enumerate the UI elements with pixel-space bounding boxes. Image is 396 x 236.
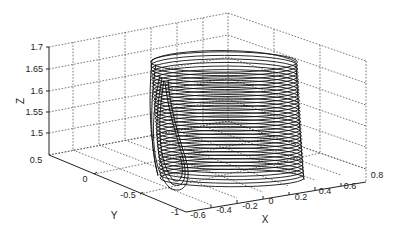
y-tick-labels: 0.5 0 -0.5 -1	[30, 155, 179, 217]
y-axis-label: Y	[111, 210, 118, 221]
trajectory-ring	[159, 159, 303, 177]
svg-text:0.5: 0.5	[30, 155, 43, 165]
svg-text:0: 0	[82, 174, 87, 184]
3d-plot: 1.7 1.65 1.6 1.55 1.5 Z 0.5 0 -0.5 -1 Y …	[0, 0, 396, 236]
svg-text:1.6: 1.6	[30, 86, 43, 96]
svg-text:-0.2: -0.2	[242, 201, 258, 211]
svg-text:-1: -1	[171, 207, 179, 217]
svg-text:0.8: 0.8	[371, 170, 384, 180]
z-tick-labels: 1.7 1.65 1.6 1.55 1.5	[25, 42, 43, 138]
svg-text:-0.5: -0.5	[120, 190, 136, 200]
trajectory-ring	[160, 166, 304, 184]
svg-text:0.6: 0.6	[344, 181, 357, 191]
x-axis-label: X	[262, 214, 269, 225]
svg-text:0.4: 0.4	[319, 186, 332, 196]
svg-text:1.5: 1.5	[30, 128, 43, 138]
svg-text:1.65: 1.65	[25, 64, 43, 74]
svg-text:-0.6: -0.6	[190, 210, 206, 220]
svg-text:0: 0	[268, 196, 273, 206]
svg-text:-0.4: -0.4	[216, 205, 232, 215]
svg-text:1.7: 1.7	[30, 42, 43, 52]
attractor-trajectory	[150, 51, 304, 191]
svg-text:1.55: 1.55	[25, 107, 43, 117]
svg-text:0.2: 0.2	[295, 192, 308, 202]
z-axis-label: Z	[15, 98, 26, 104]
